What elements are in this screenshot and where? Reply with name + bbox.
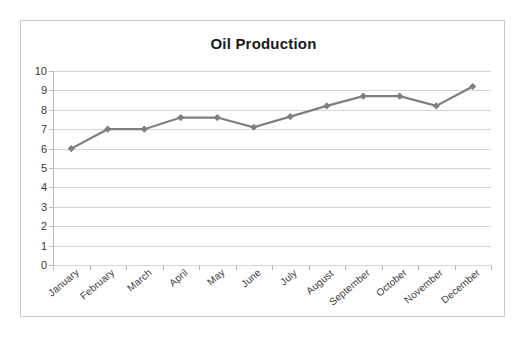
x-tick-label: February: [78, 267, 116, 302]
x-tick-label: November: [402, 267, 445, 306]
y-tick-label: 9: [25, 85, 47, 96]
x-tick-label: July: [278, 267, 299, 287]
data-point-marker: [177, 114, 184, 121]
y-tick-label: 8: [25, 105, 47, 116]
y-tick-label: 5: [25, 163, 47, 174]
data-point-marker: [396, 93, 403, 100]
x-tick-label: April: [167, 267, 190, 289]
y-tick-label: 0: [25, 260, 47, 271]
x-tick-label: June: [239, 267, 263, 290]
x-axis-labels: JanuaryFebruaryMarchAprilMayJuneJulyAugu…: [53, 269, 491, 329]
data-point-marker: [250, 124, 257, 131]
x-tick-label: May: [205, 267, 227, 288]
data-point-marker: [214, 114, 221, 121]
chart-title: Oil Production: [21, 35, 506, 52]
data-series-line: [53, 71, 491, 265]
y-axis-labels: 012345678910: [21, 71, 47, 265]
y-tick-label: 10: [25, 66, 47, 77]
data-point-marker: [360, 93, 367, 100]
x-tick-label: January: [46, 267, 81, 299]
y-tick-label: 7: [25, 124, 47, 135]
data-point-marker: [287, 113, 294, 120]
x-tick-mark: [491, 265, 492, 270]
x-tick-label: December: [439, 267, 482, 306]
y-tick-label: 6: [25, 144, 47, 155]
x-tick-label: August: [304, 267, 335, 296]
data-point-marker: [323, 102, 330, 109]
chart-frame: Oil Production 012345678910 JanuaryFebru…: [20, 20, 505, 317]
y-tick-label: 3: [25, 202, 47, 213]
data-point-marker: [141, 126, 148, 133]
series-polyline: [71, 87, 473, 149]
y-tick-label: 2: [25, 221, 47, 232]
x-tick-label: March: [125, 267, 154, 294]
plot-area: [53, 71, 491, 265]
series-markers: [68, 83, 477, 152]
y-tick-label: 1: [25, 241, 47, 252]
y-tick-label: 4: [25, 182, 47, 193]
